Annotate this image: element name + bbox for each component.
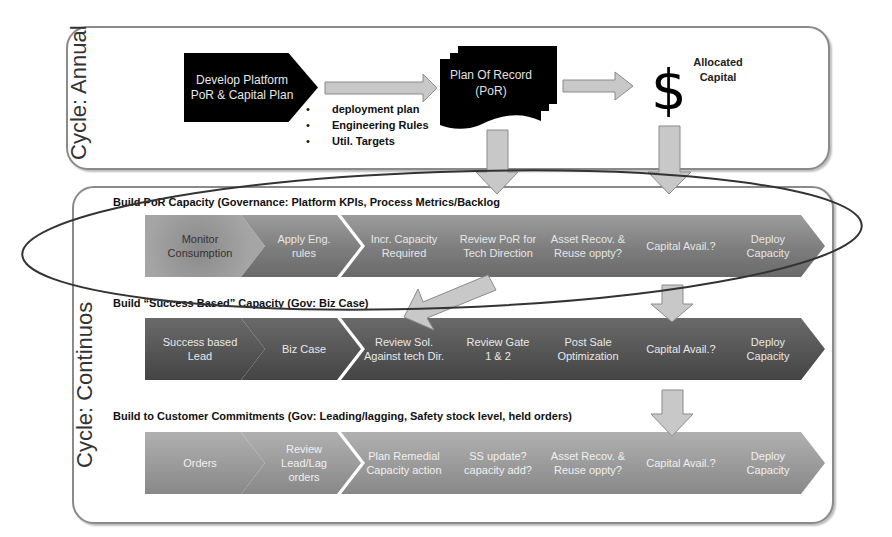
arrow-right-icon bbox=[325, 74, 437, 102]
arrow-right-icon bbox=[563, 72, 633, 100]
arrow-diagonal-icon bbox=[404, 275, 496, 330]
arrow-down-icon bbox=[648, 126, 691, 194]
arrow-down-icon bbox=[476, 130, 518, 194]
connector-overlay bbox=[0, 0, 892, 537]
arrow-down-icon bbox=[651, 390, 693, 436]
